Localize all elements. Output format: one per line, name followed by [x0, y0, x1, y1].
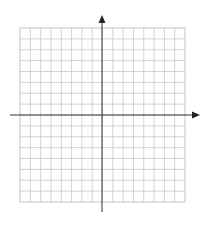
coordinate-plane: [0, 0, 206, 227]
x-axis-arrow-icon: [192, 112, 200, 119]
y-axis-arrow-icon: [99, 15, 106, 23]
